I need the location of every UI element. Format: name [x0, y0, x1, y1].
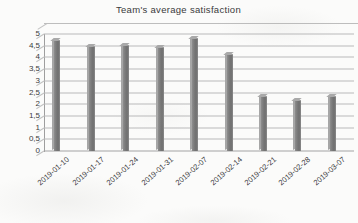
x-axis-tick-label: 2019-03-07: [312, 155, 347, 187]
bar: [192, 38, 198, 151]
bar-top-face: [188, 36, 198, 39]
bar-side-face: [87, 45, 89, 150]
bar-series: [44, 34, 354, 151]
bar: [54, 40, 60, 151]
bar-side-face: [293, 99, 295, 150]
y-axis-tick-labels: 54,543,532,521,510,50: [14, 30, 40, 154]
bar-top-face: [257, 94, 267, 97]
bar-top-face: [85, 44, 95, 47]
bar: [123, 45, 129, 151]
bar-top-face: [51, 38, 61, 41]
bar-side-face: [52, 39, 54, 150]
bar: [295, 100, 301, 151]
bar: [261, 96, 267, 151]
top-cap-line: [44, 23, 358, 24]
bar: [158, 47, 164, 151]
x-axis-tick-labels: 2019-01-102019-01-172019-01-242019-01-31…: [44, 155, 354, 221]
x-axis-tick-label: 2019-02-07: [174, 155, 209, 187]
x-axis-tick-label: 2019-01-10: [36, 155, 71, 187]
x-axis-tick-label: 2019-02-14: [208, 155, 243, 187]
bar-side-face: [190, 37, 192, 150]
bar-side-face: [225, 53, 227, 150]
bar-top-face: [154, 45, 164, 48]
bar-side-face: [121, 44, 123, 150]
x-axis-tick-label: 2019-01-31: [139, 155, 174, 187]
x-axis-tick-label: 2019-01-24: [105, 155, 140, 187]
bar-side-face: [328, 95, 330, 150]
x-axis-tick-label: 2019-02-21: [243, 155, 278, 187]
bar-top-face: [120, 43, 130, 46]
x-axis-tick-label: 2019-02-28: [277, 155, 312, 187]
chart-title: Team's average satisfaction: [0, 4, 357, 15]
bar-top-face: [292, 98, 302, 101]
x-axis-tick-label: 2019-01-17: [70, 155, 105, 187]
bar-top-face: [223, 52, 233, 55]
bar-side-face: [156, 46, 158, 150]
bar: [330, 96, 336, 151]
bar: [227, 54, 233, 151]
bar-top-face: [326, 94, 336, 97]
bar-side-face: [259, 95, 261, 150]
bar: [89, 46, 95, 151]
